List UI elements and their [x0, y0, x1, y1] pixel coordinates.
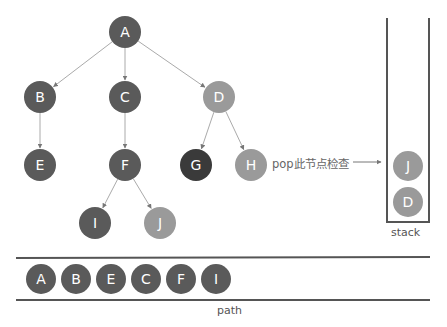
- edge-D-G: [201, 112, 213, 149]
- node-label: A: [120, 24, 130, 40]
- node-label: E: [107, 271, 116, 287]
- path-item-f: F: [166, 264, 196, 294]
- node-label: B: [71, 271, 81, 287]
- edge-A-B: [54, 42, 113, 87]
- tree-node-j: J: [144, 207, 176, 239]
- edge-D-H: [226, 111, 244, 149]
- path-label: path: [217, 304, 242, 317]
- node-label: C: [120, 89, 130, 105]
- tree-edges: [40, 41, 244, 208]
- node-label: E: [36, 157, 45, 173]
- node-label: G: [191, 157, 202, 173]
- pop-annotation-label: pop此节点检查: [272, 155, 349, 171]
- node-label: J: [405, 158, 410, 174]
- stack-label: stack: [391, 226, 420, 239]
- tree-node-f: F: [109, 149, 141, 181]
- node-label: I: [214, 271, 218, 287]
- node-label: D: [403, 194, 414, 210]
- edge-F-I: [103, 179, 118, 208]
- path-item-i: I: [201, 264, 231, 294]
- path-item-b: B: [61, 264, 91, 294]
- node-label: D: [214, 89, 225, 105]
- node-label: H: [246, 157, 257, 173]
- tree-node-b: B: [24, 81, 56, 113]
- path-item-c: C: [131, 264, 161, 294]
- tree-node-d: D: [203, 81, 235, 113]
- path-item-e: E: [96, 264, 126, 294]
- node-label: A: [36, 271, 46, 287]
- tree-node-a: A: [109, 16, 141, 48]
- stack-items: JD: [393, 151, 423, 217]
- node-label: F: [121, 157, 129, 173]
- path-items: ABECFI: [26, 264, 231, 294]
- tree-node-e: E: [24, 149, 56, 181]
- tree-nodes: ABCDEFGHIJ: [24, 16, 267, 239]
- node-label: I: [93, 215, 97, 231]
- node-label: F: [177, 271, 185, 287]
- path-item-a: A: [26, 264, 56, 294]
- edge-A-D: [138, 41, 205, 87]
- dfs-diagram: ABCDEFGHIJ JD ABECFI: [0, 0, 447, 327]
- node-label: B: [35, 89, 45, 105]
- edge-F-J: [133, 179, 151, 209]
- tree-node-c: C: [109, 81, 141, 113]
- node-label: C: [141, 271, 151, 287]
- stack-item-j: J: [393, 151, 423, 181]
- path-top-line: [16, 257, 430, 258]
- stack-item-d: D: [393, 187, 423, 217]
- tree-node-i: I: [79, 207, 111, 239]
- tree-node-h: H: [235, 149, 267, 181]
- node-label: J: [157, 215, 162, 231]
- tree-node-g: G: [180, 149, 212, 181]
